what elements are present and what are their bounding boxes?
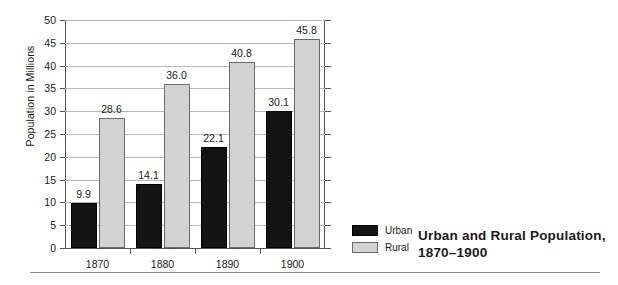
- y-tick-mark: [60, 157, 65, 158]
- gridline: [65, 66, 325, 67]
- bar-urban-1890: [201, 147, 227, 248]
- bar-urban-1880: [136, 184, 162, 248]
- legend-item-rural: Rural: [352, 240, 412, 255]
- x-tick-mark: [260, 249, 261, 254]
- y-tick-label: 5: [50, 219, 56, 231]
- bar-rural-1870: [99, 118, 125, 248]
- y-tick-label: 45: [44, 37, 56, 49]
- y-tick-mark: [60, 111, 65, 112]
- y-tick-mark-right: [325, 225, 331, 226]
- y-tick-label: 35: [44, 82, 56, 94]
- y-tick-mark-right: [325, 43, 331, 44]
- y-tick-label: 30: [44, 105, 56, 117]
- y-tick-mark: [60, 43, 65, 44]
- legend-item-urban: Urban: [352, 223, 412, 238]
- x-tick-label-1890: 1890: [216, 258, 239, 270]
- y-tick-label: 50: [44, 14, 56, 26]
- y-tick-mark-right: [325, 66, 331, 67]
- y-tick-mark-right: [325, 157, 331, 158]
- bar-value-label: 30.1: [268, 96, 288, 108]
- y-tick-mark-right: [325, 248, 331, 249]
- y-tick-mark-right: [325, 20, 331, 21]
- bar-rural-1880: [164, 84, 190, 248]
- y-tick-label: 20: [44, 151, 56, 163]
- x-tick-label-1900: 1900: [281, 258, 304, 270]
- bar-value-label: 14.1: [138, 169, 158, 181]
- y-tick-mark: [60, 248, 65, 249]
- bar-urban-1900: [266, 111, 292, 248]
- y-tick-label: 0: [50, 242, 56, 254]
- legend-swatch-rural: [352, 242, 378, 253]
- y-tick-mark: [60, 180, 65, 181]
- legend-label: Rural: [385, 242, 409, 253]
- y-tick-label: 10: [44, 196, 56, 208]
- y-tick-mark-right: [325, 202, 331, 203]
- y-tick-mark: [60, 225, 65, 226]
- gridline: [65, 20, 325, 21]
- y-tick-mark-right: [325, 180, 331, 181]
- bar-value-label: 36.0: [166, 69, 186, 81]
- bar-rural-1890: [229, 62, 255, 248]
- bottom-divider: [30, 272, 600, 273]
- y-axis-title: Population in Millions: [24, 6, 36, 186]
- bar-value-label: 45.8: [296, 24, 316, 36]
- bar-value-label: 22.1: [203, 132, 223, 144]
- y-tick-mark: [60, 202, 65, 203]
- y-tick-label: 40: [44, 60, 56, 72]
- y-tick-mark: [60, 66, 65, 67]
- legend-swatch-urban: [352, 225, 378, 236]
- y-tick-mark: [60, 20, 65, 21]
- chart-title-line-2: 1870–1900: [418, 244, 606, 261]
- x-tick-label-1870: 1870: [86, 258, 109, 270]
- bar-rural-1900: [294, 39, 320, 248]
- bar-value-label: 28.6: [101, 103, 121, 115]
- x-tick-label-1880: 1880: [151, 258, 174, 270]
- y-tick-mark: [60, 134, 65, 135]
- x-tick-mark: [130, 249, 131, 254]
- plot-area: 05101520253035404550 1870188018901900 9.…: [65, 20, 325, 249]
- chart-figure: Population in Millions 05101520253035404…: [0, 0, 618, 285]
- gridline: [65, 88, 325, 89]
- bar-value-label: 40.8: [231, 47, 251, 59]
- y-tick-mark-right: [325, 88, 331, 89]
- y-tick-label: 25: [44, 128, 56, 140]
- chart-title-line-1: Urban and Rural Population,: [418, 227, 606, 244]
- x-tick-mark: [195, 249, 196, 254]
- gridline: [65, 43, 325, 44]
- bar-urban-1870: [71, 203, 97, 248]
- legend-label: Urban: [385, 225, 412, 236]
- chart-legend: UrbanRural: [352, 223, 412, 257]
- bar-value-label: 9.9: [76, 188, 91, 200]
- y-tick-mark: [60, 88, 65, 89]
- y-tick-mark-right: [325, 134, 331, 135]
- chart-title: Urban and Rural Population, 1870–1900: [418, 227, 606, 261]
- y-tick-mark-right: [325, 111, 331, 112]
- y-tick-label: 15: [44, 174, 56, 186]
